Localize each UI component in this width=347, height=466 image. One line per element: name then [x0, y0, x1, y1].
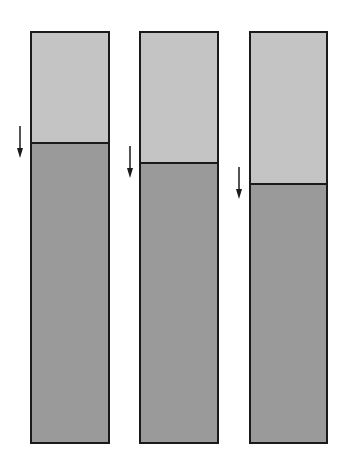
column-2	[139, 31, 219, 444]
column-3	[249, 31, 328, 444]
down-arrow-icon	[125, 146, 135, 178]
column-2-lower-region	[141, 162, 217, 442]
column-1-lower-region	[32, 142, 108, 442]
column-1	[30, 31, 110, 444]
down-arrow-icon	[234, 167, 244, 199]
down-arrow-icon	[15, 126, 25, 158]
column-3-lower-region	[251, 183, 326, 442]
